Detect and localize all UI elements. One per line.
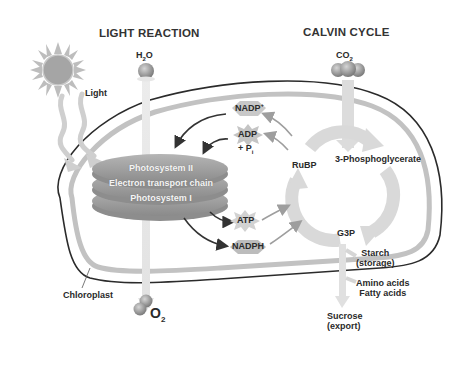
nadp-plus-label: NADP+ — [235, 102, 264, 113]
sucrose-export-text: (export) — [327, 321, 363, 331]
amino-fatty-acids-label: Amino acids Fatty acids — [356, 278, 410, 299]
light-rays-icon — [60, 94, 94, 160]
starch-text: Starch — [356, 248, 395, 258]
phosphate-label: + Pi — [238, 143, 253, 156]
co2-label: CO2 — [336, 50, 353, 63]
amino-acids-text: Amino acids — [356, 278, 410, 288]
photosynthesis-diagram — [0, 0, 465, 366]
3-phosphoglycerate-label: 3-Phosphoglycerate — [335, 154, 421, 164]
arrow-atp-to-calvin — [262, 206, 288, 220]
co2-molecule-icon — [331, 61, 365, 77]
arrow-thylakoid-to-nadph — [184, 218, 226, 246]
photosystem-i-label: Photosystem I — [104, 193, 218, 203]
rubp-label: RuBP — [292, 160, 317, 170]
starch-label: Starch (storage) — [356, 248, 395, 269]
photosystem-ii-label: Photosystem II — [104, 163, 218, 173]
water-label: H2O — [136, 50, 153, 63]
oxygen-label: O2 — [150, 305, 165, 324]
atp-label: ATP — [237, 215, 254, 225]
electron-transport-chain-label: Electron transport chain — [96, 178, 226, 188]
arrow-adp-to-thylakoid — [204, 139, 228, 152]
nadph-label: NADPH — [232, 241, 264, 251]
calvin-cycle-heading: CALVIN CYCLE — [303, 26, 390, 39]
arrow-calvin-to-nadp — [264, 114, 292, 136]
arrow-calvin-to-adp — [266, 134, 288, 150]
light-label: Light — [85, 88, 107, 98]
starch-storage-text: (storage) — [356, 258, 395, 268]
fatty-acids-text: Fatty acids — [356, 288, 410, 298]
chloroplast-label: Chloroplast — [63, 290, 113, 300]
co2-shaft-arrowhead — [336, 140, 360, 152]
arrow-nadp-to-thylakoid — [176, 114, 226, 146]
sucrose-shaft — [339, 244, 346, 302]
sucrose-text: Sucrose — [327, 311, 363, 321]
sun-icon — [30, 42, 86, 98]
light-reaction-heading: LIGHT REACTION — [99, 27, 200, 40]
g3p-label: G3P — [337, 228, 355, 238]
adp-label: ADP — [238, 129, 257, 139]
arrow-nadph-to-calvin — [270, 222, 300, 244]
sucrose-label: Sucrose (export) — [327, 311, 363, 332]
